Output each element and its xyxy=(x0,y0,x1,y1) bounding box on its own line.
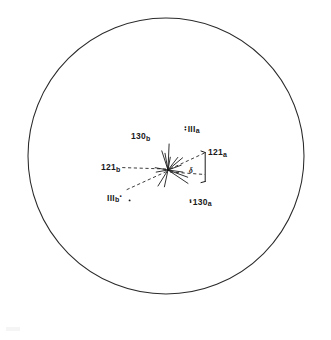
label-130b-text: 130 xyxy=(131,131,146,141)
projection-circle xyxy=(28,18,304,294)
dash-to-111b xyxy=(126,172,167,191)
label-121a: 121a xyxy=(208,148,227,158)
label-121a-subscript: a xyxy=(223,151,227,158)
label-130a-text: 130 xyxy=(193,197,208,207)
label-111a-subscript: a xyxy=(196,127,200,134)
label-111a-text: III xyxy=(188,124,196,134)
angle-bracket-top-tick xyxy=(201,151,205,153)
label-121a-text: 121 xyxy=(208,147,223,157)
label-111a: ·IIIa xyxy=(184,123,200,134)
angle-bracket-bottom-tick xyxy=(201,182,205,183)
figure-canvas: 130b ·IIIa 121a 121b IIIb· ·130a δ xyxy=(0,0,331,340)
label-111b-dot: · xyxy=(119,191,123,202)
label-121b-subscript: b xyxy=(116,166,120,173)
label-130b-subscript: b xyxy=(146,135,150,142)
angle-bracket xyxy=(201,151,205,183)
label-111b: IIIb· xyxy=(107,192,123,203)
scan-smudge xyxy=(6,327,20,331)
star-burst xyxy=(155,144,188,187)
label-121b: 121b xyxy=(101,163,120,173)
label-111b-text: III xyxy=(107,193,115,203)
label-130a-subscript: a xyxy=(208,200,212,207)
label-121b-text: 121 xyxy=(101,162,116,172)
label-130b: 130b xyxy=(131,132,150,142)
angle-symbol-delta: δ xyxy=(189,167,193,175)
label-130a: ·130a xyxy=(189,196,212,207)
projection-diagram xyxy=(0,0,331,340)
pole-dot-111b xyxy=(129,199,131,201)
